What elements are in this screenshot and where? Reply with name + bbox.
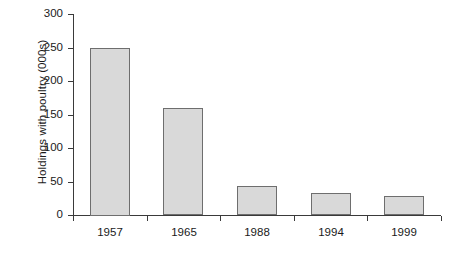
y-tick: 150 [0, 115, 73, 116]
y-tick: 250 [0, 48, 73, 49]
bar [237, 186, 277, 215]
y-tick: 0 [0, 215, 73, 216]
bar-chart: Holdings with poultry (000s) 05010015020… [0, 0, 455, 259]
y-tick-label: 0 [33, 209, 63, 220]
y-tick-label: 50 [33, 176, 63, 187]
x-tick-mark [441, 216, 442, 221]
x-tick-label: 1999 [367, 226, 441, 239]
x-tick-label: 1994 [294, 226, 368, 239]
x-tick-mark [220, 216, 221, 221]
y-tick-label: 100 [33, 142, 63, 153]
y-tick: 300 [0, 14, 73, 15]
y-tick: 100 [0, 148, 73, 149]
y-tick: 200 [0, 81, 73, 82]
x-tick-label: 1988 [220, 226, 294, 239]
bar [311, 193, 351, 215]
bar [384, 196, 424, 215]
x-tick-label: 1957 [73, 226, 147, 239]
y-tick-label: 200 [33, 75, 63, 86]
y-tick-label: 250 [33, 42, 63, 53]
y-axis-line [73, 14, 74, 216]
x-tick-mark [73, 216, 74, 221]
y-tick-label: 150 [33, 109, 63, 120]
y-tick-label: 300 [33, 8, 63, 19]
x-tick-mark [294, 216, 295, 221]
x-tick-label: 1965 [147, 226, 221, 239]
bar [163, 108, 203, 215]
bar [90, 48, 130, 216]
x-tick-mark [367, 216, 368, 221]
y-tick: 50 [0, 182, 73, 183]
x-tick-mark [147, 216, 148, 221]
